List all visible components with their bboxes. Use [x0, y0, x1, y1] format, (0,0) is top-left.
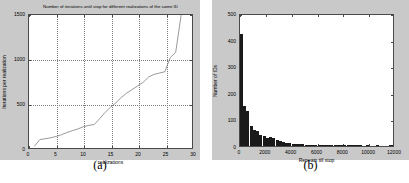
- chart-b-yticklabel: 100: [217, 117, 236, 123]
- chart-b-plot-area: [239, 14, 394, 147]
- chart-a-xticklabel: 10: [80, 151, 86, 157]
- chart-a-xticklabel: 5: [54, 151, 57, 157]
- chart-b-ytick-right: [391, 95, 393, 96]
- chart-a-title: Number of iterations until stop for diff…: [28, 4, 193, 9]
- chart-a-gridline-h: [29, 60, 193, 61]
- chart-a-xticklabel: 0: [27, 151, 30, 157]
- chart-b-yticklabel: 500: [217, 11, 236, 17]
- chart-b-xticklabel: 8000: [337, 149, 348, 155]
- chart-a-xtick-top: [57, 15, 58, 17]
- chart-a-xtick-top: [167, 15, 168, 17]
- panel-a: Number of iterations until stop for diff…: [0, 0, 200, 160]
- chart-b-ytick-right: [391, 68, 393, 69]
- chart-b-bar: [359, 145, 362, 146]
- chart-b-xticklabel: 2000: [259, 149, 270, 155]
- chart-b-xtick-top: [266, 15, 267, 17]
- chart-a-gridline-h: [29, 105, 193, 106]
- chart-a-xtick-top: [84, 15, 85, 17]
- chart-a-yticklabel: 1000: [6, 56, 25, 62]
- chart-a-yticklabel: 0: [6, 146, 25, 152]
- chart-a-yticklabel: 500: [6, 101, 25, 107]
- caption-a: (a): [0, 158, 200, 173]
- chart-a-gridline-v: [84, 15, 85, 149]
- chart-a-ytick: [29, 15, 31, 16]
- chart-a-xtick: [139, 146, 140, 148]
- chart-b-ytick-right: [391, 121, 393, 122]
- figure-root: Number of iterations until stop for diff…: [0, 0, 409, 183]
- chart-a-xtick: [84, 146, 85, 148]
- chart-b-xticklabel: 4000: [285, 149, 296, 155]
- chart-b-ylabel: Number of IDs: [212, 64, 218, 96]
- chart-a-xtick: [167, 146, 168, 148]
- chart-b-yticklabel: 200: [217, 91, 236, 97]
- chart-b-yticklabel: 400: [217, 38, 236, 44]
- chart-a-ytick: [29, 60, 31, 61]
- chart-a-xticklabel: 30: [190, 151, 196, 157]
- chart-a-gridline-v: [57, 15, 58, 149]
- chart-a-xticklabel: 25: [163, 151, 169, 157]
- chart-b-bar: [366, 145, 369, 146]
- chart-a-ytick: [29, 105, 31, 106]
- chart-b-xticklabel: 10000: [361, 149, 375, 155]
- chart-a-gridline-v: [167, 15, 168, 149]
- chart-b-xtick-top: [369, 15, 370, 17]
- chart-a-yticklabel: 1500: [6, 11, 25, 17]
- chart-b-xtick-top: [343, 15, 344, 17]
- chart-a-gridline-v: [112, 15, 113, 149]
- chart-a-ylabel: Iterations per realization: [1, 55, 7, 108]
- chart-b-yticklabel: 300: [217, 64, 236, 70]
- chart-b-bar: [392, 145, 394, 146]
- chart-a-xtick: [29, 146, 30, 148]
- chart-b-xtick-top: [292, 15, 293, 17]
- chart-a-xticklabel: 15: [108, 151, 114, 157]
- chart-b-ytick-right: [391, 42, 393, 43]
- chart-a-ytick-right: [190, 105, 192, 106]
- chart-b-xtick-top: [318, 15, 319, 17]
- caption-b: (b): [212, 158, 409, 173]
- chart-b-xticklabel: 12000: [387, 149, 401, 155]
- chart-a-ytick-right: [190, 60, 192, 61]
- chart-a-xticklabel: 20: [135, 151, 141, 157]
- chart-a-xtick-top: [139, 15, 140, 17]
- chart-a-xtick-top: [112, 15, 113, 17]
- chart-a-line-series: [29, 15, 192, 148]
- chart-b-bar: [376, 145, 379, 146]
- chart-a-xtick: [57, 146, 58, 148]
- chart-b-yticklabel: 0: [217, 144, 236, 150]
- chart-b-xtick: [369, 144, 370, 146]
- chart-b-xticklabel: 0: [238, 149, 241, 155]
- chart-a-xtick: [112, 146, 113, 148]
- chart-b-ytick: [240, 15, 242, 16]
- chart-a-gridline-v: [139, 15, 140, 149]
- panel-b: 0200040006000800010000120000100200300400…: [212, 0, 409, 160]
- chart-b-ytick-right: [391, 15, 393, 16]
- chart-a-plot-area: [28, 14, 193, 149]
- chart-b-xticklabel: 6000: [311, 149, 322, 155]
- chart-a-ytick-right: [190, 15, 192, 16]
